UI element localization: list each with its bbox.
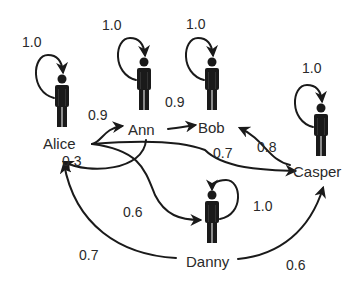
trust-graph-diagram: Alice Ann Bob Casper Danny 1.0 1.0 1.0 1…: [0, 0, 357, 289]
edge-weight-ann-alice: 0.3: [62, 154, 81, 168]
person-icon-casper: [314, 104, 328, 157]
edge-weight-ann-bob: 0.9: [165, 95, 184, 109]
edge-weight-alice-casper: 0.7: [213, 146, 232, 160]
node-label-ann: Ann: [128, 122, 155, 137]
node-label-danny: Danny: [186, 254, 229, 269]
self-loop-weight-danny: 1.0: [253, 199, 272, 213]
node-label-bob: Bob: [198, 120, 225, 135]
edge-weight-danny-casper: 0.6: [286, 258, 305, 272]
self-loop-weight-bob: 1.0: [186, 17, 205, 31]
edge-ann-bob: [168, 125, 195, 129]
self-loop-weight-casper: 1.0: [302, 61, 321, 75]
edge-weight-alice-danny: 0.6: [123, 205, 142, 219]
person-icon-alice: [55, 75, 69, 128]
edge-danny-alice: [64, 164, 176, 258]
edge-weight-alice-ann: 0.9: [88, 108, 107, 122]
self-loop-weight-ann: 1.0: [102, 18, 121, 32]
person-icon-bob: [205, 58, 219, 111]
node-label-casper: Casper: [293, 164, 341, 179]
person-icon-ann: [137, 58, 151, 111]
edge-danny-casper: [238, 188, 323, 259]
person-icon-danny: [205, 191, 219, 244]
edge-weight-danny-alice: 0.7: [79, 248, 98, 262]
edge-alice-danny: [92, 144, 200, 220]
self-loop-weight-alice: 1.0: [22, 35, 41, 49]
node-label-alice: Alice: [43, 136, 76, 151]
edge-weight-casper-bob: 0.8: [257, 140, 276, 154]
